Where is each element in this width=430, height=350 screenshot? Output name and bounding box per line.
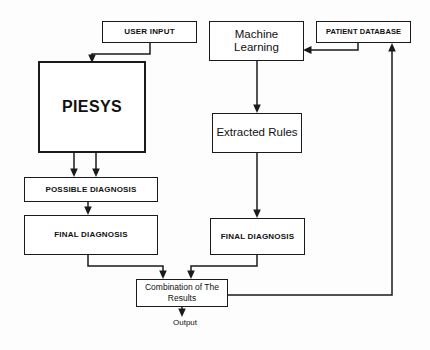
node-final-diagnosis-right-label: FINAL DIAGNOSIS — [218, 232, 298, 241]
node-extracted-rules[interactable]: Extracted Rules — [212, 113, 302, 153]
edge-possible-diagnosis-to-final-diagnosis-left — [84, 202, 92, 215]
node-final-diagnosis-right[interactable]: FINAL DIAGNOSIS — [210, 218, 305, 255]
node-machine-learning-label: Machine Learning — [210, 28, 303, 54]
node-piesys[interactable]: PIESYS — [38, 61, 146, 153]
node-user-input-label: USER INPUT — [121, 27, 177, 36]
node-piesys-label: PIESYS — [59, 98, 125, 116]
node-extracted-rules-label: Extracted Rules — [213, 126, 300, 139]
edge-final-diagnosis-left-to-combination — [88, 255, 167, 279]
edge-extracted-rules-to-final-diagnosis-right — [253, 153, 261, 218]
edge-piesys-to-possible-diagnosis-b — [92, 153, 100, 177]
node-user-input[interactable]: USER INPUT — [102, 21, 197, 43]
edge-piesys-to-possible-diagnosis-a — [70, 153, 78, 177]
edge-combination-to-output — [178, 307, 186, 317]
output-label: Output — [155, 318, 215, 327]
node-patient-database-label: PATIENT DATABASE — [323, 28, 404, 37]
node-patient-database[interactable]: PATIENT DATABASE — [316, 21, 411, 43]
node-combination-of-the-results[interactable]: Combination of The Results — [136, 279, 228, 307]
node-combination-label: Combination of The Results — [137, 282, 227, 303]
node-possible-diagnosis-label: POSSIBLE DIAGNOSIS — [42, 185, 139, 194]
edge-user-input-to-piesys — [88, 43, 150, 63]
node-machine-learning[interactable]: Machine Learning — [209, 21, 304, 61]
flowchart-figure: USER INPUT PIESYS Machine Learning PATIE… — [0, 0, 430, 350]
edge-combination-to-patient-database-feedback — [228, 43, 396, 295]
node-final-diagnosis-left-label: FINAL DIAGNOSIS — [51, 230, 131, 239]
edge-machine-learning-to-extracted-rules — [253, 61, 261, 113]
node-possible-diagnosis[interactable]: POSSIBLE DIAGNOSIS — [24, 177, 158, 202]
node-final-diagnosis-left[interactable]: FINAL DIAGNOSIS — [24, 215, 158, 255]
edge-patient-database-to-machine-learning — [303, 43, 358, 54]
edge-final-diagnosis-right-to-combination — [187, 255, 257, 279]
